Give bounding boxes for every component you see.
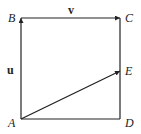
label-v: v (68, 3, 74, 17)
label-c: C (125, 11, 134, 25)
label-b: B (8, 11, 16, 25)
label-d: D (124, 116, 134, 130)
label-a: A (7, 116, 16, 130)
vector-diagram: B C E A D u v (0, 0, 141, 134)
vector-ae (21, 71, 120, 119)
label-e: E (124, 64, 133, 78)
label-u: u (7, 63, 14, 77)
